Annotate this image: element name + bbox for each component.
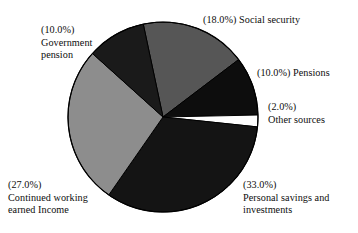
pie-label-continued-working-name-line2: earned Income — [8, 204, 88, 217]
pie-label-personal-savings: (33.0%) Personal savings and investments — [243, 179, 329, 217]
pie-label-government-pension-name-line2: pension — [41, 49, 92, 62]
pie-slice-group — [68, 22, 258, 212]
pie-label-other-sources: (2.0%) Other sources — [268, 101, 325, 126]
pie-label-pensions: (10.0%) Pensions — [257, 67, 330, 80]
pie-label-continued-working: (27.0%) Continued working earned Income — [8, 179, 88, 217]
pie-label-continued-working-name-line1: Continued working — [8, 192, 88, 205]
pie-label-government-pension-name-line1: Government — [41, 37, 92, 50]
pie-chart-page: (18.0%) Social security (10.0%) Pensions… — [0, 0, 358, 233]
pie-label-personal-savings-percent: (33.0%) — [243, 179, 329, 192]
pie-label-personal-savings-name-line2: investments — [243, 204, 329, 217]
pie-label-government-pension-percent: (10.0%) — [41, 24, 92, 37]
pie-label-government-pension: (10.0%) Government pension — [41, 24, 92, 62]
pie-label-other-sources-name: Other sources — [268, 114, 325, 127]
pie-label-continued-working-percent: (27.0%) — [8, 179, 88, 192]
pie-label-other-sources-percent: (2.0%) — [268, 101, 325, 114]
pie-label-personal-savings-name-line1: Personal savings and — [243, 192, 329, 205]
pie-label-social-security: (18.0%) Social security — [203, 14, 300, 27]
pie-label-pensions-text: (10.0%) Pensions — [257, 67, 330, 78]
pie-label-social-security-text: (18.0%) Social security — [203, 14, 300, 25]
